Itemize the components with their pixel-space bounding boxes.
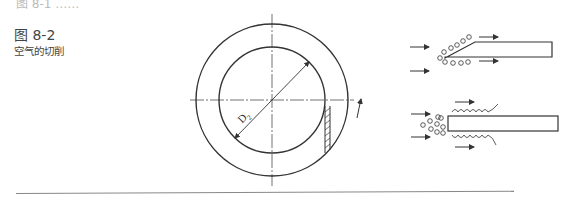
rotation-arrow-icon bbox=[357, 99, 361, 118]
ring-drawing bbox=[190, 14, 361, 186]
chamfered-blade-diagram bbox=[410, 35, 552, 71]
turbulent-bubbles bbox=[421, 104, 498, 145]
blunt-blade-diagram bbox=[411, 102, 558, 147]
blade-outline bbox=[445, 42, 552, 58]
blade-outline bbox=[448, 116, 558, 131]
air-bubbles bbox=[438, 35, 472, 66]
diameter-label: D2 bbox=[235, 108, 254, 127]
impeller-air-cutting-diagram: D2 bbox=[0, 0, 572, 200]
hatch-pattern bbox=[325, 108, 330, 148]
